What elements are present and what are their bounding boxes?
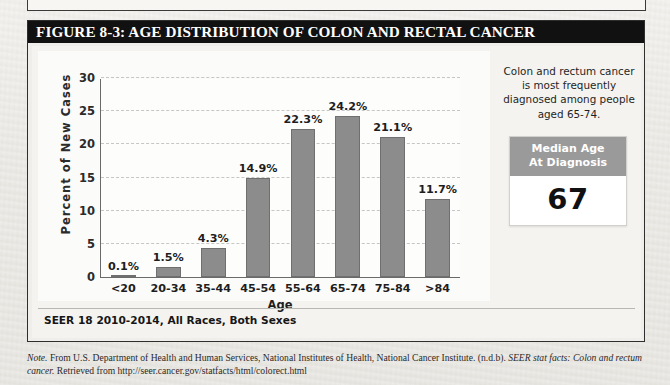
bar-slot: 22.3%55-64 xyxy=(283,79,323,277)
x-tick-label: 45-54 xyxy=(240,282,276,295)
bar xyxy=(335,116,360,277)
bar-value-label: 1.5% xyxy=(153,251,184,264)
figure-content-panel: Percent of New Cases 051015202530 0.1%<2… xyxy=(32,46,641,338)
bar-value-label: 21.1% xyxy=(373,121,412,134)
x-tick-label: 55-64 xyxy=(285,282,321,295)
bar-value-label: 11.7% xyxy=(418,183,457,196)
y-tick-label: 20 xyxy=(79,137,95,151)
median-age-value: 67 xyxy=(510,176,626,225)
x-tick-label: 75-84 xyxy=(375,282,411,295)
bar xyxy=(380,137,405,277)
figure-title-bar: FIGURE 8-3: AGE DISTRIBUTION OF COLON AN… xyxy=(28,21,644,43)
previous-figure-box-fragment xyxy=(27,0,646,11)
bar-value-label: 0.1% xyxy=(108,260,139,273)
bar-value-label: 24.2% xyxy=(328,100,367,113)
plot-area: 051015202530 0.1%<201.5%20-344.3%35-4414… xyxy=(100,79,460,278)
y-tick-label: 5 xyxy=(87,237,95,251)
bar-chart: Percent of New Cases 051015202530 0.1%<2… xyxy=(38,51,490,301)
x-tick-label: <20 xyxy=(111,282,136,295)
x-tick-label: 20-34 xyxy=(150,282,186,295)
median-age-header-line1: Median Age xyxy=(512,142,624,156)
median-age-header: Median Age At Diagnosis xyxy=(510,137,626,176)
bar-slot: 21.1%75-84 xyxy=(373,79,413,277)
figure-note: Note. From U.S. Department of Health and… xyxy=(27,352,645,377)
note-text-part2: Retrieved from http://seer.cancer.gov/st… xyxy=(54,365,307,376)
gridline: 30 xyxy=(101,77,460,78)
y-tick-label: 15 xyxy=(79,171,95,185)
bar xyxy=(246,178,271,277)
figure-title: FIGURE 8-3: AGE DISTRIBUTION OF COLON AN… xyxy=(36,23,535,41)
bar xyxy=(425,199,450,277)
y-tick-label: 30 xyxy=(79,71,95,85)
bar-slot: 0.1%<20 xyxy=(104,79,144,277)
bar xyxy=(156,267,181,277)
figure-container: FIGURE 8-3: AGE DISTRIBUTION OF COLON AN… xyxy=(27,20,645,342)
bar-slot: 1.5%20-34 xyxy=(148,79,188,277)
bar-value-label: 14.9% xyxy=(239,162,278,175)
side-panel: Colon and rectum cancer is most frequent… xyxy=(502,64,636,226)
x-tick-label: >84 xyxy=(425,282,450,295)
bar-slot: 4.3%35-44 xyxy=(193,79,233,277)
bar-value-label: 4.3% xyxy=(198,232,229,245)
source-divider xyxy=(38,308,635,309)
median-age-box: Median Age At Diagnosis 67 xyxy=(509,136,627,226)
x-tick-label: 65-74 xyxy=(330,282,366,295)
y-tick-label: 25 xyxy=(79,104,95,118)
bar xyxy=(291,129,316,277)
source-line: SEER 18 2010-2014, All Races, Both Sexes xyxy=(44,314,296,326)
note-label: Note. xyxy=(27,352,48,363)
median-age-header-line2: At Diagnosis xyxy=(512,156,624,170)
bar-slot: 14.9%45-54 xyxy=(238,79,278,277)
y-tick-label: 10 xyxy=(79,204,95,218)
y-axis-title: Percent of New Cases xyxy=(59,64,73,244)
bar xyxy=(111,275,136,277)
x-axis-title: Age xyxy=(100,298,460,312)
callout-text: Colon and rectum cancer is most frequent… xyxy=(502,64,636,121)
bar-slot: 24.2%65-74 xyxy=(328,79,368,277)
bar-series: 0.1%<201.5%20-344.3%35-4414.9%45-5422.3%… xyxy=(101,79,460,277)
bar xyxy=(201,248,226,277)
bar-value-label: 22.3% xyxy=(284,113,323,126)
note-text-part1: From U.S. Department of Health and Human… xyxy=(48,352,509,363)
x-tick-label: 35-44 xyxy=(195,282,231,295)
bar-slot: 11.7%>84 xyxy=(418,79,458,277)
y-tick-label: 0 xyxy=(87,270,95,284)
